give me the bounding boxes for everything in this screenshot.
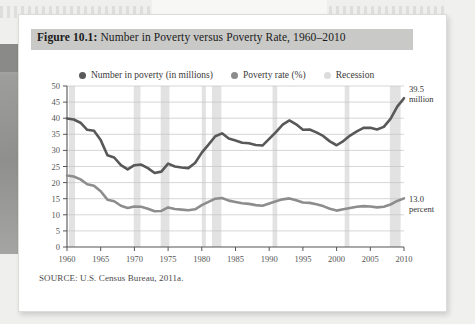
page-root: Figure 10.1: Number in Poverty versus Po… — [0, 0, 475, 324]
y-axis-tick-label: 5 — [56, 226, 60, 236]
annotation-number-in-poverty: 39.5 — [409, 84, 424, 94]
y-axis-tick-label: 25 — [52, 162, 61, 172]
series-line — [67, 98, 404, 173]
y-axis-tick-label: 10 — [52, 210, 61, 220]
x-axis-tick-label: 1980 — [193, 254, 210, 264]
page-right-margin — [445, 0, 475, 324]
x-axis-tick-label: 2005 — [362, 254, 379, 264]
y-axis-tick-label: 0 — [56, 242, 60, 252]
x-axis-tick-label: 1990 — [261, 254, 278, 264]
poverty-line-chart: 0510152025303540455019601965197019751980… — [19, 15, 446, 311]
x-axis-tick-label: 1965 — [92, 254, 109, 264]
x-axis-tick-label: 1985 — [227, 254, 244, 264]
x-axis-tick-label: 1975 — [160, 254, 177, 264]
x-axis-tick-label: 1960 — [59, 254, 76, 264]
x-axis-tick-label: 2000 — [328, 254, 345, 264]
y-axis-tick-label: 15 — [52, 194, 61, 204]
y-axis-tick-label: 40 — [52, 113, 61, 123]
x-axis-tick-label: 1995 — [294, 254, 311, 264]
y-axis-tick-label: 30 — [52, 145, 61, 155]
series-line — [67, 176, 404, 212]
annotation-poverty-rate: 13.0 — [409, 194, 424, 204]
figure-card: Figure 10.1: Number in Poverty versus Po… — [18, 14, 447, 312]
x-axis-tick-label: 1970 — [126, 254, 143, 264]
annotation-poverty-rate-unit: percent — [409, 204, 435, 214]
y-axis-tick-label: 45 — [52, 97, 61, 107]
y-axis-tick-label: 20 — [52, 178, 61, 188]
x-axis-tick-label: 2010 — [396, 254, 413, 264]
annotation-number-in-poverty-unit: million — [409, 94, 434, 104]
y-axis-tick-label: 50 — [52, 81, 61, 91]
y-axis-tick-label: 35 — [52, 129, 61, 139]
chart-plot-area: 0510152025303540455019601965197019751980… — [19, 15, 446, 311]
figure-source: SOURCE: U.S. Census Bureau, 2011a. — [39, 273, 184, 283]
